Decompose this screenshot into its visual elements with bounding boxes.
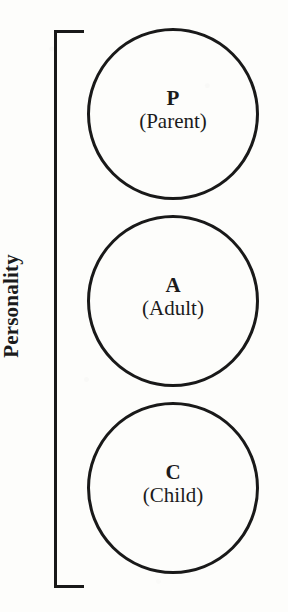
ego-state-diagram: Personality P (Parent) A (Adult) C (Chil… xyxy=(0,0,288,612)
ego-state-letter-parent: P xyxy=(139,88,207,110)
personality-label-text: Personality xyxy=(0,254,24,358)
ego-state-circle-adult: A (Adult) xyxy=(87,215,259,387)
ego-state-name-adult: (Adult) xyxy=(142,297,204,321)
ego-state-circle-child: C (Child) xyxy=(87,402,259,574)
personality-label: Personality xyxy=(0,0,60,612)
ego-state-name-parent: (Parent) xyxy=(139,110,207,134)
ego-state-text-adult: A (Adult) xyxy=(142,275,204,320)
ego-state-letter-child: C xyxy=(143,462,204,484)
ego-state-text-child: C (Child) xyxy=(143,462,204,507)
ego-state-text-parent: P (Parent) xyxy=(139,88,207,133)
ego-state-name-child: (Child) xyxy=(143,484,204,508)
ego-state-letter-adult: A xyxy=(142,275,204,297)
ego-state-circle-parent: P (Parent) xyxy=(87,28,259,200)
